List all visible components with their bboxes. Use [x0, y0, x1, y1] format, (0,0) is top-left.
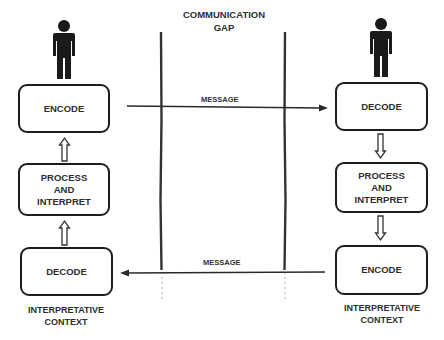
- message-arrow-right: [127, 105, 328, 112]
- message-label-top: MESSAGE: [201, 95, 239, 104]
- flow-arrow-up-icon: [60, 221, 70, 245]
- box-label: ENCODE: [44, 103, 85, 115]
- label-line: AND: [37, 184, 91, 196]
- title-line-2: GAP: [172, 21, 276, 34]
- left-decode-box: DECODE: [20, 247, 113, 296]
- box-label: PROCESS AND INTERPRET: [37, 172, 91, 208]
- right-encode-box: ENCODE: [335, 245, 428, 295]
- right-context-label: INTERPRETATIVE CONTEXT: [328, 302, 436, 326]
- box-label: PROCESS AND INTERPRET: [355, 170, 409, 206]
- right-process-interpret-box: PROCESS AND INTERPRET: [335, 162, 428, 213]
- label-line: INTERPRET: [37, 196, 91, 208]
- context-line: CONTEXT: [328, 314, 436, 326]
- gap-wall-right: [285, 32, 286, 300]
- gap-wall-left: [161, 32, 163, 300]
- flow-arrow-down-icon: [376, 216, 386, 240]
- box-label: DECODE: [361, 101, 402, 113]
- box-label: DECODE: [46, 266, 87, 278]
- message-arrow-left: [120, 270, 325, 277]
- context-line: INTERPRETATIVE: [12, 304, 120, 316]
- label-line: PROCESS: [355, 170, 409, 182]
- left-context-label: INTERPRETATIVE CONTEXT: [12, 304, 120, 328]
- right-decode-box: DECODE: [335, 82, 428, 131]
- flow-arrow-down-icon: [376, 134, 386, 158]
- flow-arrow-up-icon: [60, 138, 70, 161]
- label-line: INTERPRET: [355, 194, 409, 206]
- label-line: AND: [355, 182, 409, 194]
- context-line: CONTEXT: [12, 316, 120, 328]
- context-line: INTERPRETATIVE: [328, 302, 436, 314]
- box-label: ENCODE: [361, 264, 402, 276]
- label-line: PROCESS: [37, 172, 91, 184]
- left-encode-box: ENCODE: [18, 84, 110, 133]
- communication-gap-title: COMMUNICATION GAP: [172, 8, 276, 34]
- left-process-interpret-box: PROCESS AND INTERPRET: [18, 163, 110, 216]
- person-icon: [53, 20, 75, 79]
- title-line-1: COMMUNICATION: [172, 8, 276, 21]
- person-icon: [370, 18, 392, 77]
- message-label-bottom: MESSAGE: [203, 258, 241, 267]
